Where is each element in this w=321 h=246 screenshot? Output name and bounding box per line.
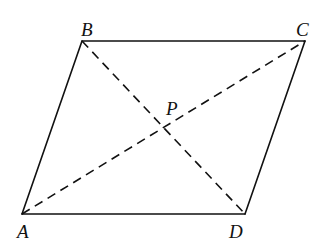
edge-cd [245, 41, 305, 214]
vertex-label-b: B [81, 19, 93, 40]
intersection-label-p: P [165, 98, 178, 119]
diagonal-ac [22, 41, 305, 214]
vertex-label-d: D [228, 221, 243, 242]
edge-ab [22, 41, 82, 214]
vertex-label-a: A [15, 221, 29, 242]
vertex-label-c: C [296, 19, 309, 40]
parallelogram-diagram: B C A D P [0, 0, 321, 246]
